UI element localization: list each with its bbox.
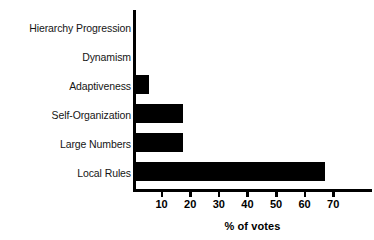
- x-tick-mark-10: [161, 191, 164, 197]
- x-tick-label-6: 70: [318, 198, 348, 211]
- x-axis-line: [133, 189, 372, 192]
- bar-chart: Hierarchy Progression Dynamism Adaptiven…: [0, 0, 374, 240]
- x-tick-mark-50: [275, 191, 278, 197]
- x-tick-mark-60: [304, 191, 307, 197]
- bar-self-organization: [133, 104, 183, 123]
- bar-adaptiveness: [133, 75, 149, 94]
- x-tick-mark-40: [246, 191, 249, 197]
- x-tick-mark-70: [332, 191, 335, 197]
- x-tick-label-2: 30: [204, 198, 234, 211]
- y-axis-label-3: Self-Organization: [52, 109, 131, 121]
- y-axis-label-1: Dynamism: [82, 51, 131, 63]
- y-axis-label-5: Local Rules: [77, 167, 131, 179]
- x-tick-label-0: 10: [147, 198, 177, 211]
- x-axis-title: % of votes: [133, 220, 372, 232]
- bar-large-numbers: [133, 133, 183, 152]
- x-tick-label-5: 60: [290, 198, 320, 211]
- bar-local-rules: [133, 162, 325, 181]
- y-axis-label-2: Adaptiveness: [69, 80, 131, 92]
- y-axis-label-4: Large Numbers: [60, 138, 131, 150]
- x-tick-label-3: 40: [232, 198, 262, 211]
- y-axis-label-0: Hierarchy Progression: [29, 22, 131, 34]
- x-tick-mark-30: [218, 191, 221, 197]
- x-tick-label-4: 50: [261, 198, 291, 211]
- x-tick-label-1: 20: [175, 198, 205, 211]
- x-tick-mark-20: [189, 191, 192, 197]
